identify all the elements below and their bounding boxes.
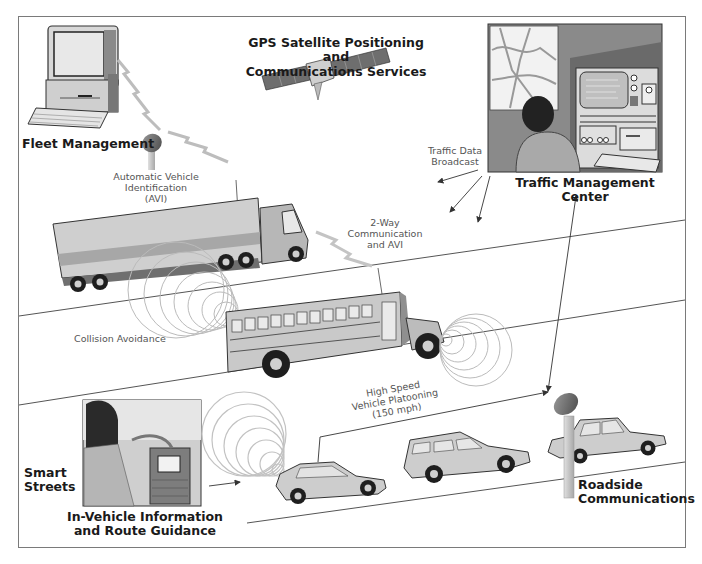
label-roadside: Roadside Communications xyxy=(578,478,688,507)
label-avi-line3: (AVI) xyxy=(96,194,216,205)
label-smart-line1: Smart xyxy=(24,466,84,480)
label-invehicle-line1: In-Vehicle Information xyxy=(60,510,230,524)
label-avi: Automatic Vehicle Identification (AVI) xyxy=(96,172,216,205)
in-vehicle-panel-illustration xyxy=(83,400,201,506)
label-smart-line2: Streets xyxy=(24,480,84,494)
suv-icon xyxy=(404,432,530,483)
label-collision: Collision Avoidance xyxy=(74,334,194,345)
label-traffic-data: Traffic Data Broadcast xyxy=(420,146,490,168)
label-fleet-management: Fleet Management xyxy=(22,137,162,151)
label-gps: GPS Satellite Positioning and Communicat… xyxy=(236,36,436,79)
label-invehicle-line2: and Route Guidance xyxy=(60,524,230,538)
sedan-icon xyxy=(276,462,386,504)
label-traffic-data-line2: Broadcast xyxy=(420,157,490,168)
fleet-computer-icon xyxy=(28,26,118,128)
label-traffic-center: Traffic Management Center xyxy=(490,176,680,205)
platoon-waves xyxy=(202,392,286,476)
school-bus-icon xyxy=(226,292,444,378)
label-two-way-line3: and AVI xyxy=(340,240,430,251)
label-gps-line1: GPS Satellite Positioning and xyxy=(236,36,436,65)
invehicle-arrow xyxy=(209,482,240,486)
traffic-center-illustration xyxy=(488,24,662,172)
label-smart-streets: Smart Streets xyxy=(24,466,84,495)
label-two-way: 2-Way Communication and AVI xyxy=(340,218,430,251)
label-in-vehicle: In-Vehicle Information and Route Guidanc… xyxy=(60,510,230,539)
label-roadside-line2: Communications xyxy=(578,492,688,506)
collision-waves-front xyxy=(440,314,512,386)
label-roadside-line1: Roadside xyxy=(578,478,688,492)
label-gps-line2: Communications Services xyxy=(236,65,436,79)
